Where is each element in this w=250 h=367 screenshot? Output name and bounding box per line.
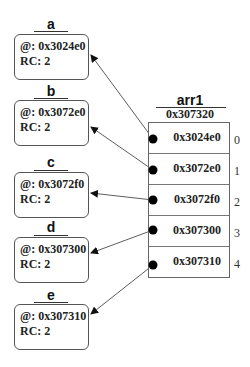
pointer-dot-0-icon (149, 135, 158, 144)
array-index-3: 3 (234, 226, 240, 241)
array-index-2: 2 (234, 195, 240, 210)
pointer-dot-3-icon (149, 226, 158, 235)
pointer-dot-1-icon (149, 166, 158, 175)
array-index-4: 4 (234, 257, 240, 272)
array-index-1: 1 (234, 164, 240, 179)
array-index-0: 0 (234, 133, 240, 148)
pointer-dot-4-icon (149, 261, 158, 270)
pointer-dot-2-icon (149, 196, 158, 205)
pointer-dots (0, 0, 250, 367)
reference-count-diagram: a @: 0x3024e0 RC: 2 b @: 0x3072e0 RC: 2 … (0, 0, 250, 367)
